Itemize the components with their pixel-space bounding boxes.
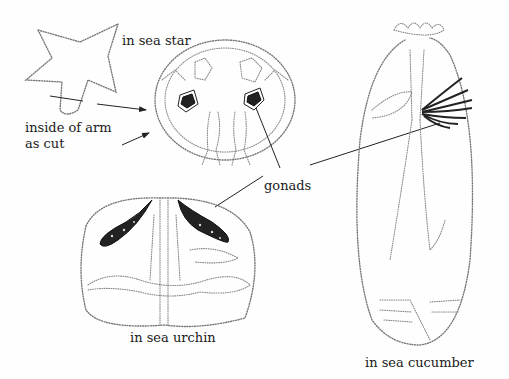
sea-star-arm-cross-section	[155, 40, 295, 165]
arrow-icon	[122, 133, 149, 145]
arrow-icon	[97, 104, 146, 110]
sea-star-whole	[26, 24, 118, 114]
label-as-cut: as cut	[25, 136, 64, 151]
label-sea-urchin: in sea urchin	[130, 330, 216, 345]
label-sea-star: in sea star	[122, 33, 191, 48]
diagram-canvas: in sea star inside of arm as cut gonads …	[0, 0, 509, 379]
sea-cucumber	[357, 23, 473, 345]
diagram-illustration	[0, 0, 509, 379]
label-sea-cucumber: in sea cucumber	[365, 355, 474, 370]
label-inside-of-arm: inside of arm	[25, 120, 112, 135]
label-gonads: gonads	[264, 178, 311, 193]
sea-urchin	[81, 198, 255, 327]
